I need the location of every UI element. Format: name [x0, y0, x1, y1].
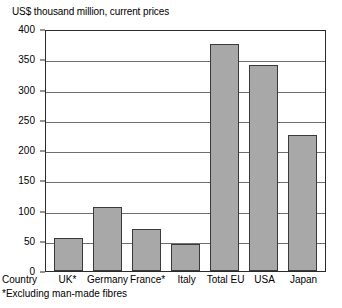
bar-slot	[88, 31, 127, 271]
x-axis-title: Country	[2, 274, 37, 286]
chart-footnote: *Excluding man-made fibres	[2, 288, 127, 300]
x-tick-label: Italy	[167, 274, 206, 288]
bar-slot	[244, 31, 283, 271]
bar-slot	[127, 31, 166, 271]
x-tick-label: Total EU	[206, 274, 245, 288]
plot-area	[45, 30, 326, 272]
x-tick-label: USA	[245, 274, 284, 288]
bar-slot	[49, 31, 88, 271]
x-tick-labels: UK*GermanyFrance*ItalyTotal EUUSAJapan	[45, 274, 326, 288]
bar-chart: US$ thousand million, current prices 050…	[0, 0, 342, 308]
y-tick-label: 400	[18, 25, 35, 35]
bar[interactable]	[249, 65, 278, 271]
y-tick-label: 100	[18, 207, 35, 217]
y-axis: 050100150200250300350400	[0, 0, 45, 308]
bar-series	[46, 31, 325, 271]
y-tick-label: 250	[18, 116, 35, 126]
x-tick-label: Germany	[87, 274, 128, 288]
x-tick-label: Japan	[284, 274, 323, 288]
y-tick-label: 150	[18, 176, 35, 186]
y-tick-label: 200	[18, 146, 35, 156]
bar[interactable]	[93, 207, 122, 271]
x-tick-label: UK*	[48, 274, 87, 288]
y-tick-label: 300	[18, 86, 35, 96]
bar[interactable]	[171, 244, 200, 271]
bar[interactable]	[132, 229, 161, 271]
bar[interactable]	[210, 44, 239, 271]
x-axis: Country UK*GermanyFrance*ItalyTotal EUUS…	[0, 274, 342, 288]
y-tick-label: 350	[18, 55, 35, 65]
bar-slot	[205, 31, 244, 271]
x-tick-label: France*	[128, 274, 167, 288]
bar[interactable]	[288, 135, 317, 271]
bar-slot	[166, 31, 205, 271]
y-tick-label: 50	[24, 237, 35, 247]
bar-slot	[283, 31, 322, 271]
bar[interactable]	[54, 238, 83, 271]
